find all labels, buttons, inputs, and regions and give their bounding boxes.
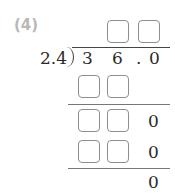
step3-product-box-2[interactable]	[107, 140, 129, 163]
step2-trailing-zero: 0	[148, 113, 159, 130]
step3-trailing-zero: 0	[148, 144, 159, 161]
step1-product-box-2[interactable]	[107, 75, 129, 98]
step2-difference-box-1[interactable]	[78, 109, 100, 132]
step3-product-box-1[interactable]	[78, 140, 100, 163]
subtraction-line-2	[68, 168, 170, 169]
dividend-digit-0: 0	[149, 50, 160, 67]
remainder: 0	[148, 174, 159, 191]
subtraction-line-1	[68, 104, 170, 105]
step1-product-box-1[interactable]	[78, 75, 100, 98]
divisor: 2.4	[40, 50, 67, 67]
dividend-digit-6: 6	[112, 50, 123, 67]
quotient-tens-input-box[interactable]	[107, 20, 129, 43]
problem-number-label: (4)	[14, 18, 38, 33]
division-bracket	[66, 47, 74, 67]
quotient-ones-input-box[interactable]	[138, 20, 160, 43]
step2-difference-box-2[interactable]	[107, 109, 129, 132]
dividend-digit-3: 3	[82, 50, 93, 67]
dividend-decimal-point: .	[136, 50, 141, 67]
